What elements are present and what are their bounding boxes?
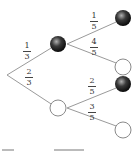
- probability-fraction: 45: [89, 38, 99, 57]
- fraction-denominator: 5: [89, 49, 99, 57]
- probability-fraction: 13: [22, 42, 32, 61]
- probability-fraction: 15: [89, 12, 99, 31]
- probability-fraction: 23: [24, 68, 34, 87]
- fraction-numerator: 2: [24, 68, 34, 76]
- black-ball-icon: [50, 36, 66, 52]
- probability-tree: [0, 0, 138, 151]
- probability-fraction: 35: [87, 103, 97, 122]
- fraction-denominator: 3: [24, 79, 34, 87]
- probability-fraction: 25: [87, 77, 97, 96]
- cutoff-caption-fragment: [2, 149, 14, 151]
- white-ball-icon: [50, 100, 66, 116]
- fraction-denominator: 5: [87, 114, 97, 122]
- fraction-denominator: 5: [89, 23, 99, 31]
- fraction-numerator: 1: [89, 12, 99, 20]
- white-ball-icon: [115, 122, 131, 138]
- black-ball-icon: [115, 76, 131, 92]
- black-ball-icon: [115, 10, 131, 26]
- fraction-denominator: 5: [87, 88, 97, 96]
- fraction-denominator: 3: [22, 53, 32, 61]
- white-ball-icon: [115, 59, 131, 75]
- fraction-numerator: 1: [22, 42, 32, 50]
- cutoff-caption-fragment: [54, 149, 84, 151]
- fraction-numerator: 2: [87, 77, 97, 85]
- fraction-numerator: 4: [89, 38, 99, 46]
- fraction-numerator: 3: [87, 103, 97, 111]
